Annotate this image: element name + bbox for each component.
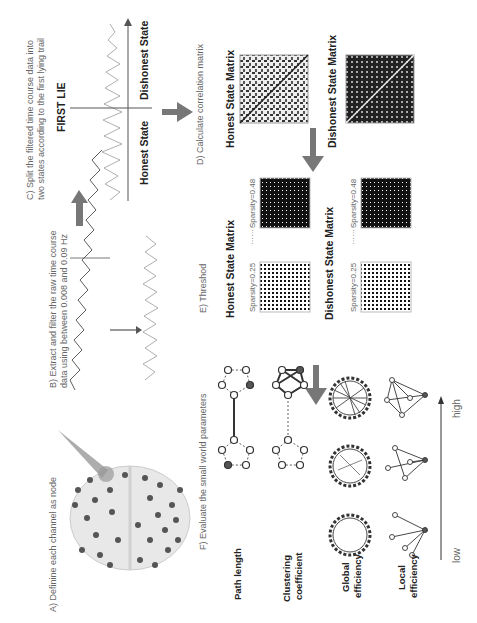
honest-sparsity-high: Sparsity=0.48 — [248, 179, 257, 228]
honest-state-label: Honest State — [138, 121, 150, 185]
dishonest-state-label: Dishonest State — [138, 21, 150, 100]
caption-c-line2: two states according to the first lying … — [36, 38, 46, 200]
diagram-graphics — [0, 0, 477, 623]
path-length-networks — [219, 367, 254, 469]
caption-f: F) Evaluate the small world parameters — [198, 393, 208, 550]
local-label-1: Local — [396, 565, 407, 590]
dishonest-threshold-0.48 — [361, 178, 411, 228]
path-length-label: Path length — [232, 548, 243, 600]
small-arrow — [110, 326, 142, 334]
caption-c-line1: C) Split the filtered time course data i… — [25, 40, 35, 200]
caption-b-line1: B) Extract and filter the raw time cours… — [48, 230, 58, 388]
caption-e: E) Threshod — [198, 264, 208, 313]
global-label-1: Global — [340, 562, 351, 592]
clustering-label-2: coefficient — [293, 552, 304, 600]
caption-b-line2: data using between 0.008 and 0.09 Hz — [59, 234, 69, 388]
dishonest-threshold-0.25 — [361, 262, 411, 312]
honest-ellipsis: ······· — [248, 226, 257, 245]
arrow-d-to-e — [302, 128, 324, 172]
dishonest-sparsity-low: Sparsity=0.25 — [349, 263, 358, 312]
honest-threshold-title: Honest State Matrix — [224, 220, 236, 318]
global-efficiency-networks — [330, 378, 370, 555]
honest-sparsity-low: Sparsity=0.25 — [248, 263, 257, 312]
arrow-b-to-c — [71, 190, 88, 226]
local-label-2: efficiency — [408, 554, 419, 598]
first-lie-label: FIRST LIE — [55, 82, 67, 132]
arrow-c-to-d — [162, 102, 193, 122]
caption-d: D) Calculate correlation matrix — [195, 44, 205, 165]
dishonest-ellipsis: ······· — [349, 226, 358, 245]
honest-threshold-0.25 — [260, 262, 310, 312]
local-efficiency-networks — [385, 378, 428, 558]
clustering-coefficient-networks — [273, 367, 308, 469]
clustering-label-1: Clustering — [281, 555, 292, 602]
low-to-high-axis — [438, 396, 444, 560]
global-label-2: efficiency — [352, 554, 363, 598]
caption-a: A) Definine each channel as node — [48, 477, 58, 612]
dishonest-threshold-title: Dishonest State Matrix — [323, 207, 335, 320]
honest-threshold-0.48 — [260, 178, 310, 228]
dishonest-sparsity-high: Sparsity=0.48 — [349, 179, 358, 228]
raw-time-course — [70, 150, 110, 390]
scale-low-label: low — [452, 548, 462, 563]
dishonest-matrix-title: Dishonest State Matrix — [326, 35, 338, 148]
scale-high-label: high — [452, 399, 462, 418]
filtered-time-course — [143, 236, 158, 380]
honest-matrix-title: Honest State Matrix — [224, 50, 236, 148]
arrow-e-to-f — [305, 365, 327, 405]
brain-with-electrodes — [58, 430, 190, 570]
